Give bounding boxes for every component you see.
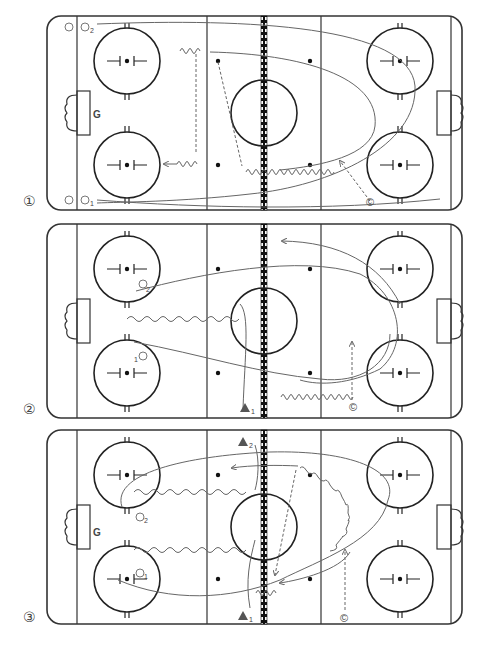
diagram-number: ① — [23, 193, 36, 209]
defender-2-sub: 2 — [249, 442, 253, 449]
player-o1 — [81, 196, 89, 204]
coach-icon: © — [340, 612, 348, 624]
player-marker — [65, 196, 73, 204]
diagram-1: 2 1 G © ① — [23, 16, 463, 210]
defender-marker — [240, 403, 250, 412]
player-o2 — [81, 23, 89, 31]
player-o2-sub: 2 — [90, 27, 94, 34]
player-o1 — [136, 569, 144, 577]
player-o1 — [139, 352, 147, 360]
player-o2 — [136, 513, 144, 521]
coach-icon: © — [349, 401, 357, 413]
player-marker — [65, 23, 73, 31]
diagram-number: ③ — [23, 609, 36, 625]
player-o2-sub: 2 — [146, 286, 150, 293]
goalie-label: G — [93, 109, 101, 120]
player-o1-sub: 1 — [134, 356, 138, 363]
defender-2-marker — [238, 437, 248, 446]
diagram-number: ② — [23, 401, 36, 417]
goalie-label: G — [93, 527, 101, 538]
player-o1-sub: 1 — [90, 200, 94, 207]
diagram-3: 2 1 2 1 G © ③ — [23, 430, 463, 625]
defender-1-sub: 1 — [249, 616, 253, 623]
player-o1-sub: 1 — [144, 573, 148, 580]
hockey-drill-diagrams: 2 1 G © ① 2 1 1 © ② — [0, 0, 503, 646]
diagram-2: 2 1 1 © ② — [23, 224, 463, 418]
coach-icon: © — [366, 196, 374, 208]
player-o2-sub: 2 — [144, 517, 148, 524]
defender-1-marker — [238, 611, 248, 620]
defender-sub: 1 — [251, 408, 255, 415]
